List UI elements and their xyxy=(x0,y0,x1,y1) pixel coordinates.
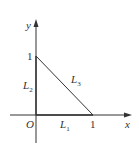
y-tick-one: 1 xyxy=(27,51,33,62)
x-tick-one: 1 xyxy=(90,119,96,130)
y-axis-label: y xyxy=(26,20,31,31)
label-l2: L2 xyxy=(23,80,33,94)
segment-l3 xyxy=(36,56,93,115)
y-axis-arrow-icon xyxy=(34,19,39,27)
x-axis-arrow-icon xyxy=(124,113,132,118)
x-axis-label: x xyxy=(125,119,130,130)
label-l3: L3 xyxy=(71,74,81,88)
label-l1: L1 xyxy=(60,119,70,133)
origin-label: O xyxy=(26,119,34,130)
